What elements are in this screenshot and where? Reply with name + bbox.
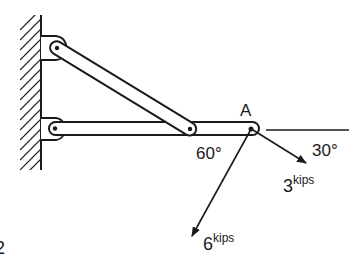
force-3-value: 3 (283, 176, 293, 196)
force-3kips-arrow (253, 130, 306, 163)
pin-upper (55, 46, 59, 50)
force-3kips-label: 3kips (283, 173, 314, 196)
force-6-unit: kips (213, 231, 234, 245)
wall-support (20, 9, 41, 180)
truss-bracket-diagram: A 60° 30° 3kips 6kips 2 (0, 0, 357, 258)
force-6-value: 6 (203, 234, 213, 254)
angle-label-60: 60° (196, 144, 222, 163)
force-3-unit: kips (293, 173, 314, 187)
pin-diagonal-end (188, 127, 192, 131)
angle-label-30: 30° (312, 141, 338, 160)
point-label-a: A (240, 101, 252, 120)
pin-lower (53, 126, 57, 130)
corner-mark: 2 (0, 238, 5, 258)
force-6kips-label: 6kips (203, 231, 234, 254)
horizontal-member (49, 122, 259, 135)
